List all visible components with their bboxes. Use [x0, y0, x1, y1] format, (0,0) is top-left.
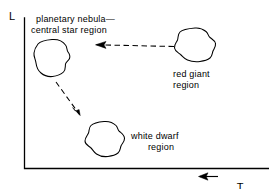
arrow-shaft-dashed-diagonal: [56, 82, 80, 115]
planetary-nebula-label-line1: planetary nebula—: [36, 14, 115, 24]
x-axis-label-subscript: s: [244, 187, 248, 189]
x-axis-direction-arrow: [199, 173, 219, 180]
region-blob-white-dwarf: [85, 121, 125, 156]
region-blob-planetary-nebula: [34, 39, 70, 76]
arrow-red-giant-to-planetary-nebula: [96, 41, 175, 48]
white-dwarf-label-line1: white dwarf: [131, 131, 191, 141]
arrow-head-down-right: [73, 108, 81, 116]
x-axis-label-symbol: T: [237, 181, 244, 189]
x-axis-label: Ts: [224, 169, 248, 189]
arrow-shaft-dashed-horizontal: [96, 45, 174, 47]
arrow-planetary-nebula-to-white-dwarf: [56, 82, 80, 116]
planetary-nebula-outline: [34, 39, 70, 76]
planetary-nebula-label-line2: central star region: [31, 25, 107, 35]
white-dwarf-label-line2: region: [131, 142, 191, 152]
region-blob-red-giant: [174, 28, 215, 62]
red-giant-outline: [174, 28, 215, 62]
red-giant-label-line1: red giant: [173, 69, 210, 79]
stellar-evolution-diagram: L planetary nebula— central star region …: [0, 0, 269, 189]
y-axis-label: L: [9, 10, 15, 22]
arrow-head-left: [96, 41, 107, 48]
white-dwarf-outline: [85, 121, 125, 156]
red-giant-label-line2: region: [173, 80, 199, 90]
